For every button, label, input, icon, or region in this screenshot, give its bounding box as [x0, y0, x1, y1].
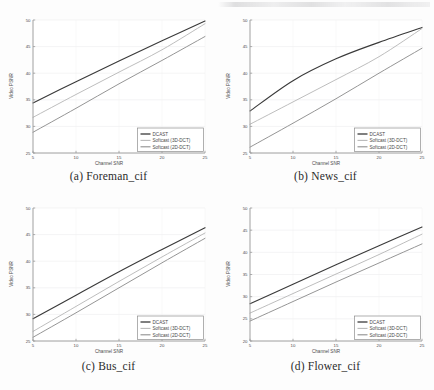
- y-tick-label: 25: [26, 151, 31, 156]
- y-tick-label: 50: [243, 206, 248, 211]
- legend-d[interactable]: DCASTSoftcast (3D-DCT)Softcast (2D-DCT): [355, 316, 421, 340]
- y-tick-label: 35: [26, 285, 31, 290]
- chart-c: 253035404550 510152025 Channel SNR Video…: [0, 194, 217, 357]
- chart-d-svg: 20253035404550 510152025 Channel SNR Vid…: [217, 194, 434, 357]
- y-tick-label: 45: [26, 232, 31, 237]
- x-tick-label: 20: [377, 155, 382, 160]
- x-tick-label: 10: [74, 343, 79, 348]
- y-axis-label-b: Video PSNR: [226, 72, 231, 98]
- legend-label: DCAST: [153, 320, 169, 325]
- chart-b: 253035404550 510152025 Channel SNR Video…: [217, 6, 434, 169]
- x-tick-label: 25: [203, 155, 208, 160]
- legend-label: DCAST: [370, 320, 386, 325]
- caption-c: (c) Bus_cif: [0, 360, 217, 372]
- y-axis-label-a: Video PSNR: [9, 72, 14, 98]
- x-axis-label-b: Channel SNR: [312, 161, 341, 166]
- caption-b: (b) News_cif: [217, 170, 434, 182]
- x-axis-label-c: Channel SNR: [95, 349, 124, 354]
- x-axis-label-a: Channel SNR: [95, 161, 124, 166]
- x-axis-label-d: Channel SNR: [312, 349, 341, 354]
- y-tick-label: 50: [243, 18, 248, 23]
- chart-a-svg: 253035404550 510152025 Channel SNR Video…: [0, 6, 217, 169]
- y-tick-label: 45: [243, 44, 248, 49]
- x-tick-label: 25: [203, 343, 208, 348]
- plot-area-a: 253035404550 510152025 Channel SNR Video…: [9, 18, 208, 166]
- y-axis-label-c: Video PSNR: [9, 260, 14, 286]
- y-tick-label: 30: [26, 124, 31, 129]
- y-tick-label: 40: [26, 259, 31, 264]
- y-axis-label-d: Video PSNR: [226, 260, 231, 286]
- x-tick-label: 5: [32, 343, 35, 348]
- panel-d: 20253035404550 510152025 Channel SNR Vid…: [217, 194, 434, 384]
- y-tick-label: 25: [243, 316, 248, 321]
- legend-label: Softcast (2D-DCT): [153, 333, 191, 338]
- figure-page: 253035404550 510152025 Channel SNR Video…: [0, 0, 434, 390]
- y-tick-label: 40: [243, 250, 248, 255]
- legend-label: Softcast (3D-DCT): [370, 138, 408, 143]
- x-tick-label: 5: [249, 155, 252, 160]
- panel-b: 253035404550 510152025 Channel SNR Video…: [217, 6, 434, 194]
- chart-c-svg: 253035404550 510152025 Channel SNR Video…: [0, 194, 217, 357]
- legend-label: Softcast (3D-DCT): [153, 326, 191, 331]
- x-tick-label: 15: [334, 343, 339, 348]
- y-tick-label: 35: [243, 272, 248, 277]
- caption-a: (a) Foreman_cif: [0, 170, 217, 182]
- legend-label: Softcast (2D-DCT): [153, 145, 191, 150]
- y-tick-label: 30: [243, 294, 248, 299]
- y-tick-label: 30: [26, 312, 31, 317]
- x-tick-label: 5: [32, 155, 35, 160]
- plot-area-d: 20253035404550 510152025 Channel SNR Vid…: [226, 206, 425, 354]
- x-tick-label: 15: [117, 343, 122, 348]
- y-tick-label: 35: [243, 97, 248, 102]
- legend-a[interactable]: DCASTSoftcast (3D-DCT)Softcast (2D-DCT): [138, 128, 204, 152]
- legend-c[interactable]: DCASTSoftcast (3D-DCT)Softcast (2D-DCT): [138, 316, 204, 340]
- y-tick-label: 45: [26, 44, 31, 49]
- legend-label: DCAST: [370, 132, 386, 137]
- chart-b-svg: 253035404550 510152025 Channel SNR Video…: [217, 6, 434, 169]
- panel-grid: 253035404550 510152025 Channel SNR Video…: [0, 6, 434, 390]
- panel-a: 253035404550 510152025 Channel SNR Video…: [0, 6, 217, 194]
- x-tick-label: 25: [420, 155, 425, 160]
- legend-label: Softcast (2D-DCT): [370, 333, 408, 338]
- y-tick-label: 20: [243, 339, 248, 344]
- x-tick-label: 25: [420, 343, 425, 348]
- legend-label: Softcast (3D-DCT): [153, 138, 191, 143]
- x-tick-label: 20: [160, 343, 165, 348]
- legend-label: Softcast (3D-DCT): [370, 326, 408, 331]
- x-tick-label: 15: [117, 155, 122, 160]
- x-tick-label: 10: [291, 343, 296, 348]
- x-tick-label: 20: [377, 343, 382, 348]
- x-tick-label: 10: [291, 155, 296, 160]
- plot-area-c: 253035404550 510152025 Channel SNR Video…: [9, 206, 208, 354]
- panel-c: 253035404550 510152025 Channel SNR Video…: [0, 194, 217, 384]
- y-tick-label: 25: [243, 151, 248, 156]
- chart-a: 253035404550 510152025 Channel SNR Video…: [0, 6, 217, 169]
- legend-label: DCAST: [153, 132, 169, 137]
- y-tick-label: 50: [26, 206, 31, 211]
- caption-d: (d) Flower_cif: [217, 360, 434, 372]
- x-tick-label: 20: [160, 155, 165, 160]
- y-tick-label: 50: [26, 18, 31, 23]
- y-tick-label: 30: [243, 124, 248, 129]
- y-tick-label: 25: [26, 339, 31, 344]
- x-tick-label: 10: [74, 155, 79, 160]
- y-tick-label: 40: [243, 71, 248, 76]
- plot-area-b: 253035404550 510152025 Channel SNR Video…: [226, 18, 425, 166]
- x-tick-label: 5: [249, 343, 252, 348]
- x-tick-label: 15: [334, 155, 339, 160]
- chart-d: 20253035404550 510152025 Channel SNR Vid…: [217, 194, 434, 357]
- legend-label: Softcast (2D-DCT): [370, 145, 408, 150]
- y-tick-label: 35: [26, 97, 31, 102]
- y-tick-label: 45: [243, 228, 248, 233]
- legend-b[interactable]: DCASTSoftcast (3D-DCT)Softcast (2D-DCT): [355, 128, 421, 152]
- y-tick-label: 40: [26, 71, 31, 76]
